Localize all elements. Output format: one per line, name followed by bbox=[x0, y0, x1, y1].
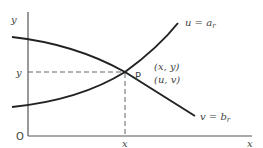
u-curve-label: u = ar bbox=[185, 17, 216, 30]
coordinate-diagram: y y O x x P (x, y) (u, v) u = ar v = br bbox=[0, 0, 263, 148]
point-label: P bbox=[135, 71, 141, 82]
origin-label: O bbox=[16, 131, 24, 142]
point-xy-coords: (x, y) bbox=[154, 61, 180, 72]
y-axis-label: y bbox=[10, 14, 17, 25]
x-axis-label: x bbox=[247, 138, 253, 148]
y-tick-label: y bbox=[15, 67, 22, 78]
v-curve-label: v = br bbox=[200, 111, 231, 124]
x-tick-label: x bbox=[122, 138, 128, 148]
point-uv-coords: (u, v) bbox=[154, 74, 180, 85]
